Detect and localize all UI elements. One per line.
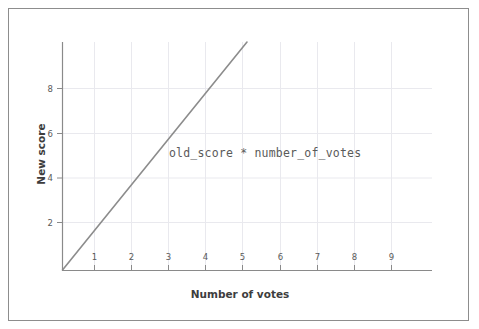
- x-tick-label-1: 1: [86, 252, 104, 262]
- x-tick-label-9: 9: [383, 252, 401, 262]
- y-tick-label-2: 2: [39, 218, 53, 228]
- y-tick-label-8: 8: [39, 84, 53, 94]
- x-tick-marks: [95, 265, 392, 271]
- x-tick-label-2: 2: [123, 252, 141, 262]
- x-tick-label-7: 7: [309, 252, 327, 262]
- y-axis-title: New score: [35, 109, 47, 199]
- x-tick-label-5: 5: [234, 252, 252, 262]
- x-tick-label-3: 3: [160, 252, 178, 262]
- x-tick-label-6: 6: [272, 252, 290, 262]
- formula-annotation: old_score * number_of_votes: [169, 146, 361, 160]
- y-tick-marks: [57, 89, 63, 223]
- x-tick-label-4: 4: [197, 252, 215, 262]
- plot-canvas: [0, 0, 479, 329]
- chart-figure: 1 2 3 4 5 6 7 8 9 2 4 6 8 old_score * nu…: [0, 0, 479, 329]
- x-tick-label-8: 8: [346, 252, 364, 262]
- x-axis-title: Number of votes: [170, 288, 310, 300]
